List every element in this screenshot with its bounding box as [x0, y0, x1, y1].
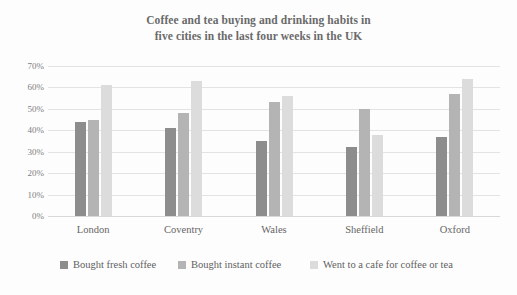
bar	[101, 85, 112, 216]
chart-title: Coffee and tea buying and drinking habit…	[0, 12, 517, 44]
chart-title-line-1: Coffee and tea buying and drinking habit…	[0, 12, 517, 28]
bar	[165, 128, 176, 216]
y-axis-tick-label: 70%	[10, 62, 44, 71]
y-axis-tick-label: 50%	[10, 104, 44, 113]
legend-swatch-icon	[310, 261, 318, 269]
legend-label: Bought instant coffee	[191, 258, 281, 272]
bar-groups	[48, 66, 500, 216]
legend-item-1[interactable]: Bought instant coffee	[178, 258, 281, 272]
bar	[256, 141, 267, 216]
y-axis-tick-label: 40%	[10, 126, 44, 135]
x-axis: LondonCoventryWalesSheffieldOxford	[48, 223, 500, 239]
y-axis-tick-label: 10%	[10, 190, 44, 199]
bar	[191, 81, 202, 216]
y-axis: 0%10%20%30%40%50%60%70%	[10, 66, 44, 216]
x-axis-tick-label-sheffield: Sheffield	[319, 223, 409, 237]
y-axis-tick-label: 60%	[10, 83, 44, 92]
bar	[462, 79, 473, 216]
x-axis-tick-label-wales: Wales	[229, 223, 319, 237]
bar	[372, 135, 383, 216]
chart-legend: Bought fresh coffeeBought instant coffee…	[0, 258, 517, 274]
bar	[75, 122, 86, 216]
legend-item-2[interactable]: Went to a cafe for coffee or tea	[310, 258, 453, 272]
bar	[436, 137, 447, 216]
legend-item-0[interactable]: Bought fresh coffee	[60, 258, 156, 272]
bar	[88, 120, 99, 216]
bar-chart: Coffee and tea buying and drinking habit…	[0, 0, 517, 295]
bar-group-wales	[256, 66, 293, 216]
bar	[269, 102, 280, 216]
x-axis-tick-label-oxford: Oxford	[410, 223, 500, 237]
y-axis-tick-label: 0%	[10, 212, 44, 221]
bar	[449, 94, 460, 216]
chart-title-line-2: five cities in the last four weeks in th…	[0, 28, 517, 44]
legend-swatch-icon	[60, 261, 68, 269]
bar	[282, 96, 293, 216]
bar	[359, 109, 370, 216]
legend-swatch-icon	[178, 261, 186, 269]
bar-group-coventry	[165, 66, 202, 216]
x-axis-tick-label-coventry: Coventry	[138, 223, 228, 237]
bar	[346, 147, 357, 216]
y-axis-tick-label: 20%	[10, 169, 44, 178]
legend-label: Went to a cafe for coffee or tea	[323, 258, 453, 272]
x-axis-tick-label-london: London	[48, 223, 138, 237]
plot-area	[48, 66, 500, 216]
gridline-0	[48, 216, 500, 217]
bar-group-sheffield	[346, 66, 383, 216]
bar	[178, 113, 189, 216]
y-axis-tick-label: 30%	[10, 147, 44, 156]
bar-group-london	[75, 66, 112, 216]
legend-label: Bought fresh coffee	[73, 258, 156, 272]
bar-group-oxford	[436, 66, 473, 216]
